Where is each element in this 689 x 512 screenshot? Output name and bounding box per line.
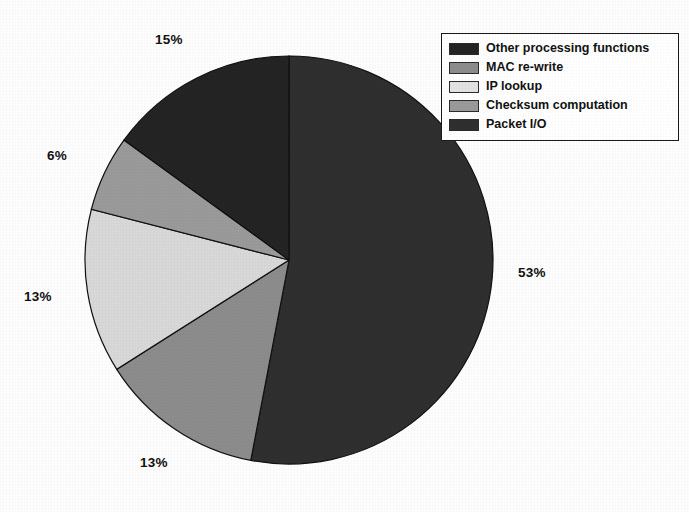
- legend-item-label: Checksum computation: [486, 99, 628, 112]
- legend-swatch-icon: [449, 43, 479, 55]
- chart-page: 15%6%13%13%53% Other processing function…: [0, 0, 689, 512]
- pie-percent-label: 15%: [155, 32, 183, 47]
- legend-item: Other processing functions: [449, 39, 672, 58]
- legend-swatch-icon: [449, 81, 479, 93]
- legend-swatch-icon: [449, 119, 479, 131]
- pie-percent-label: 13%: [140, 455, 168, 470]
- pie-percent-label: 6%: [47, 148, 67, 163]
- chart-legend: Other processing functionsMAC re-writeIP…: [441, 33, 679, 141]
- legend-item: IP lookup: [449, 77, 672, 96]
- pie-percent-label: 13%: [24, 289, 52, 304]
- legend-item-label: IP lookup: [486, 80, 542, 93]
- legend-item: Checksum computation: [449, 96, 672, 115]
- legend-item-label: Packet I/O: [486, 118, 546, 131]
- legend-swatch-icon: [449, 100, 479, 112]
- legend-item: MAC re-write: [449, 58, 672, 77]
- pie-percent-label: 53%: [518, 265, 546, 280]
- legend-item-label: MAC re-write: [486, 61, 563, 74]
- legend-item: Packet I/O: [449, 115, 672, 134]
- legend-item-label: Other processing functions: [486, 42, 649, 55]
- legend-swatch-icon: [449, 62, 479, 74]
